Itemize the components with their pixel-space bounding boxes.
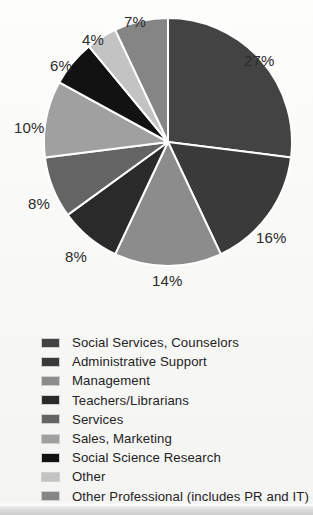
legend-item: Management bbox=[41, 371, 306, 390]
pie-slice bbox=[168, 18, 292, 158]
legend-item-label: Management bbox=[72, 373, 150, 388]
legend-swatch-icon bbox=[41, 338, 60, 348]
legend-item-label: Social Services, Counselors bbox=[72, 335, 239, 350]
slice-label-8-services: 8% bbox=[28, 195, 50, 212]
chart-legend: Social Services, Counselors Administrati… bbox=[41, 333, 306, 506]
slice-label-10: 10% bbox=[14, 119, 45, 136]
slice-label-6: 6% bbox=[50, 57, 72, 74]
page-bottom-edge bbox=[0, 506, 313, 515]
legend-item-label: Other bbox=[72, 469, 105, 484]
legend-item: Social Science Research bbox=[41, 448, 306, 467]
slice-label-27: 27% bbox=[244, 52, 275, 69]
slice-label-7: 7% bbox=[124, 13, 146, 30]
legend-swatch-icon bbox=[41, 414, 60, 424]
legend-swatch-icon bbox=[41, 472, 60, 482]
legend-item: Other bbox=[41, 467, 306, 486]
legend-item-label: Services bbox=[72, 412, 123, 427]
legend-swatch-icon bbox=[41, 376, 60, 386]
legend-item: Teachers/Librarians bbox=[41, 391, 306, 410]
legend-item: Sales, Marketing bbox=[41, 429, 306, 448]
pie-chart-area: 27% 16% 14% 8% 8% 10% 6% 4% 7% bbox=[0, 0, 313, 318]
legend-swatch-icon bbox=[41, 491, 60, 501]
slice-label-16: 16% bbox=[256, 229, 287, 246]
legend-item: Services bbox=[41, 410, 306, 429]
legend-item: Administrative Support bbox=[41, 352, 306, 371]
legend-item-label: Teachers/Librarians bbox=[72, 393, 189, 408]
legend-swatch-icon bbox=[41, 395, 60, 405]
legend-swatch-icon bbox=[41, 453, 60, 463]
legend-item-label: Social Science Research bbox=[72, 450, 221, 465]
legend-swatch-icon bbox=[41, 434, 60, 444]
chart-page: 27% 16% 14% 8% 8% 10% 6% 4% 7% Social Se… bbox=[0, 0, 313, 515]
legend-item-label: Sales, Marketing bbox=[72, 431, 172, 446]
legend-swatch-icon bbox=[41, 357, 60, 367]
slice-label-14: 14% bbox=[152, 272, 183, 289]
legend-item: Social Services, Counselors bbox=[41, 333, 306, 352]
legend-item-label: Administrative Support bbox=[72, 354, 207, 369]
slice-label-4: 4% bbox=[82, 31, 104, 48]
slice-label-8-teachers: 8% bbox=[65, 248, 87, 265]
